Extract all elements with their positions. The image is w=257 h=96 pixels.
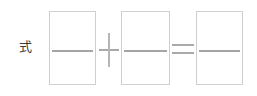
answer-box-sum[interactable]	[196, 11, 243, 85]
writing-rule-line	[199, 50, 240, 52]
answer-box-first-addend[interactable]	[49, 11, 96, 85]
writing-rule-line	[52, 50, 93, 52]
expression-worksheet: 式	[0, 0, 257, 96]
writing-rule-line	[124, 50, 167, 52]
answer-box-second-addend[interactable]	[121, 11, 170, 85]
plus-vertical-stroke	[108, 33, 110, 67]
equals-bottom-stroke	[172, 52, 194, 54]
plus-icon	[99, 33, 119, 67]
equals-top-stroke	[172, 44, 194, 46]
shiki-expression-label: 式	[13, 36, 37, 58]
equals-icon	[172, 44, 194, 56]
